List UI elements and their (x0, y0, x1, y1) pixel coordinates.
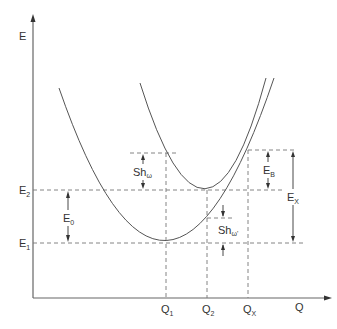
e2-label: E2 (19, 184, 30, 198)
x-axis-arrow-icon (324, 296, 332, 301)
arrow-down-icon (66, 235, 70, 242)
ground-state-curve (59, 78, 274, 241)
arrow-up-icon (291, 151, 295, 157)
arrow-down-icon (141, 183, 145, 189)
excited-state-curve (140, 78, 266, 189)
configuration-coordinate-diagram: E Q E2 E1 Q1 Q2 QX E0 Shω Shω' EB EX (0, 0, 337, 329)
arrow-down-icon (291, 236, 295, 242)
arrow-up-icon (266, 151, 270, 157)
sh-lower-label: Shω' (218, 224, 238, 237)
y-axis-label: E (19, 30, 26, 42)
y-axis-arrow-icon (31, 14, 36, 22)
q2-label: Q2 (202, 303, 215, 317)
arrow-down-icon (266, 183, 270, 189)
qx-label: QX (243, 303, 257, 317)
x-axis-label: Q (295, 301, 304, 313)
q1-label: Q1 (161, 303, 174, 317)
e1-label: E1 (19, 237, 30, 251)
arrow-down-icon (221, 211, 225, 217)
arrow-up-icon (141, 154, 145, 160)
arrow-up-icon (66, 191, 70, 198)
arrow-up-icon (221, 244, 225, 250)
